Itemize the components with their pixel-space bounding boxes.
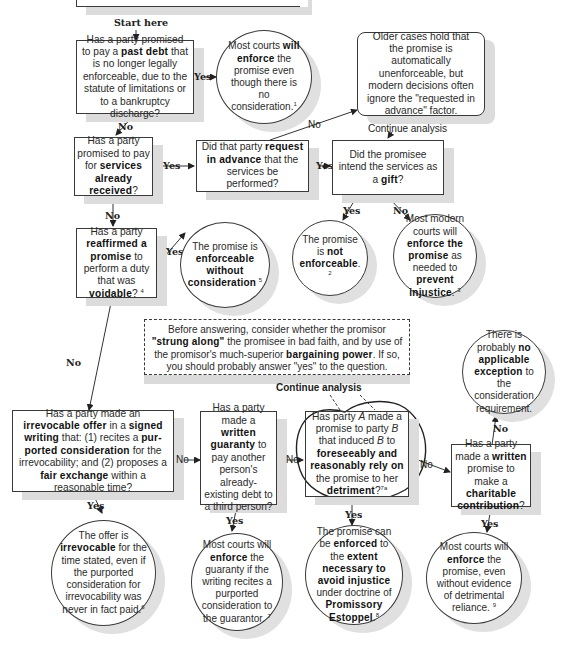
question-written-guaranty: Has a party made a written guaranty to p… [200, 411, 277, 505]
edge-label-yes: Yes [163, 160, 180, 171]
result-prevent-injustice: Most modern courts will enforce the prom… [393, 214, 477, 298]
question-reaffirmed-promise: Has a party reaffirmed a promise to perf… [76, 228, 157, 298]
question-services-received: Has a party promised to pay for services… [74, 137, 153, 196]
edge-label-yes: Yes [481, 518, 498, 529]
edge-label-yes: Yes [316, 160, 333, 171]
edge-label-yes: Yes [226, 515, 243, 526]
edge-label-continue-analysis: Continue analysis [276, 382, 362, 393]
start-here-label: Start here [114, 17, 168, 28]
edge-label-no: No [66, 357, 81, 368]
result-guaranty-enforced: Most courts will enforce the guaranty if… [191, 533, 283, 631]
result-offer-irrevocable: The offer is irrevocable for the time st… [51, 520, 156, 626]
question-charitable-contribution: Has a party made a written promise to ma… [451, 444, 531, 507]
result-past-debt-enforced: Most courts will enforce the promise eve… [216, 30, 312, 124]
edge-label-no: No [286, 454, 299, 465]
result-charitable-enforced: Most courts will enforce the promise, ev… [426, 532, 522, 624]
question-detrimental-reliance: Has party A made a promise to party B th… [305, 411, 409, 497]
question-irrevocable-offer: Has a party made an irrevocable offer in… [12, 410, 174, 492]
edge-label-yes: Yes [343, 205, 360, 216]
question-gift: Did the promisee intend the services as … [332, 140, 444, 195]
result-promissory-estoppel: The promise can be enforced to the exten… [305, 525, 403, 625]
result-enforceable-without-consideration: The promise is enforceable without consi… [180, 222, 270, 308]
note-older-cases: Older cases hold that the promise is aut… [357, 32, 485, 116]
result-no-applicable-exception: There is probably no applicable exceptio… [462, 330, 546, 414]
question-past-debt: Has a party promised to pay a past debt … [76, 40, 194, 114]
edge-label-no: No [420, 459, 433, 470]
edge-label-yes: Yes [345, 509, 362, 520]
edge-label-no-2: No [308, 119, 321, 130]
edge-label-yes: Yes [194, 71, 211, 82]
question-request-in-advance: Did that party request in advance that t… [196, 140, 309, 192]
edge-label-yes: Yes [87, 500, 104, 511]
edge-label-no: No [176, 454, 189, 465]
edge-label-no: No [105, 210, 120, 221]
edge-label-no: No [118, 121, 133, 132]
note-strung-along: Before answering, consider whether the p… [144, 319, 410, 375]
result-not-enforceable: The promise is not enforceable. 2 [292, 220, 368, 296]
edge-label-no: No [493, 423, 508, 434]
edge-label-continue-analysis: Continue analysis [368, 123, 447, 134]
